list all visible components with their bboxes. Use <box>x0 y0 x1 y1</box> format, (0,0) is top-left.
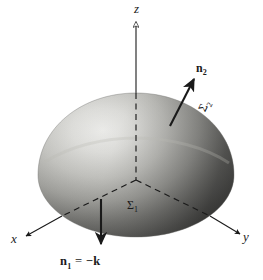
sigma1-subscript: 1 <box>134 205 138 214</box>
y-axis-label: y <box>243 230 249 243</box>
x-axis-label: x <box>11 232 17 245</box>
n2-subscript: 2 <box>203 68 207 77</box>
sigma1-symbol: Σ <box>127 198 134 212</box>
n1-value: −k <box>86 254 101 268</box>
y-axis-visible-segment <box>210 216 240 234</box>
n2-label: n2 <box>196 62 207 77</box>
figure-canvas: z x y n2 Σ2 Σ1 n1 = −k <box>0 0 263 280</box>
n1-equation-label: n1 = −k <box>60 255 101 271</box>
x-axis-visible-segment <box>26 216 62 236</box>
sigma1-label: Σ1 <box>127 199 138 214</box>
n2-symbol: n <box>196 61 203 75</box>
hemisphere-diagram-svg <box>0 0 263 280</box>
z-axis-label: z <box>134 2 139 15</box>
